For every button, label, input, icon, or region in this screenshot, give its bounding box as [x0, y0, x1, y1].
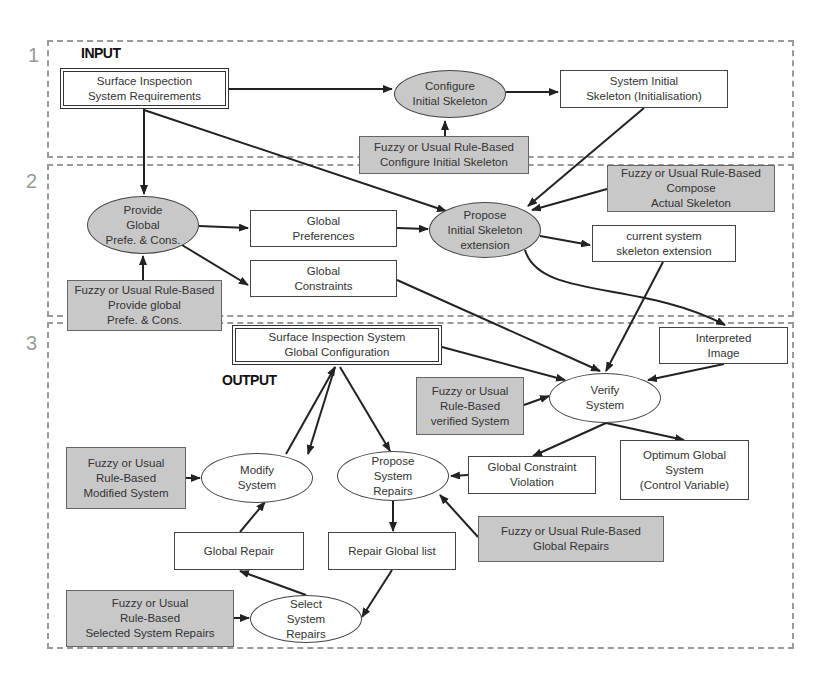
configure-skeleton-process: Configure Initial Skeleton	[394, 70, 506, 118]
verify-system-process: Verify System	[549, 373, 661, 423]
propose-repairs-process: Propose System Repairs	[337, 451, 449, 501]
modify-system-process: Modify System	[201, 453, 313, 503]
rule-selected-repairs-box: Fuzzy or Usual Rule-Based Selected Syste…	[66, 590, 234, 647]
rule-global-repairs-box: Fuzzy or Usual Rule-Based Global Repairs	[478, 516, 664, 562]
rule-verified-system-box: Fuzzy or Usual Rule-Based verified Syste…	[416, 377, 524, 435]
repair-list-box: Repair Global list	[328, 532, 456, 570]
system-initial-skeleton-box: System Initial Skeleton (Initialisation)	[560, 70, 728, 108]
propose-skeleton-process: Propose Initial Skeleton extension	[429, 202, 541, 258]
global-configuration-box: Surface Inspection System Global Configu…	[232, 325, 442, 365]
rule-modified-system-box: Fuzzy or Usual Rule-Based Modified Syste…	[66, 447, 186, 509]
global-repair-box: Global Repair	[174, 532, 304, 570]
optimum-global-box: Optimum Global System (Control Variable)	[620, 440, 749, 500]
global-constraints-box: Global Constraints	[250, 260, 397, 297]
interpreted-image-box: Interpreted Image	[659, 327, 788, 364]
rule-provide-global-box: Fuzzy or Usual Rule-Based Provide global…	[67, 280, 222, 331]
global-preferences-box: Global Preferences	[250, 210, 397, 247]
current-skeleton-box: current system skeleton extension	[592, 225, 736, 262]
constraint-violation-box: Global Constraint Violation	[468, 456, 596, 494]
requirements-box: Surface Inspection System Requirements	[60, 68, 229, 109]
rule-configure-skeleton-box: Fuzzy or Usual Rule-Based Configure Init…	[359, 136, 529, 174]
rule-compose-skeleton-box: Fuzzy or Usual Rule-Based Compose Actual…	[607, 165, 775, 212]
provide-global-process: Provide Global Prefe. & Cons.	[87, 196, 199, 254]
select-repairs-process: Select System Repairs	[250, 595, 362, 643]
